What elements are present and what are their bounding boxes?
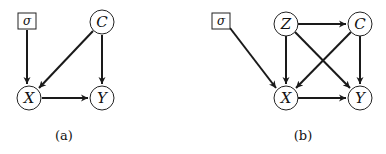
panel-b: σ Z C X Y (b): [212, 12, 372, 143]
node-c-label: C: [96, 13, 108, 31]
node-sigma-label: σ: [217, 14, 226, 28]
caption-a: (a): [55, 128, 73, 143]
caption-b: (b): [294, 128, 312, 143]
causal-diagrams: σ C X Y (a) σ Z C X Y (b): [0, 0, 386, 154]
panel-a: σ C X Y (a): [17, 10, 114, 143]
edge-sigma-x: [230, 28, 276, 88]
node-x-label: X: [23, 89, 36, 107]
edge-c-x: [39, 31, 93, 88]
node-sigma-label: σ: [23, 14, 32, 28]
node-z-label: Z: [280, 15, 292, 33]
node-c-label: C: [354, 15, 366, 33]
node-x-label: X: [280, 89, 293, 107]
